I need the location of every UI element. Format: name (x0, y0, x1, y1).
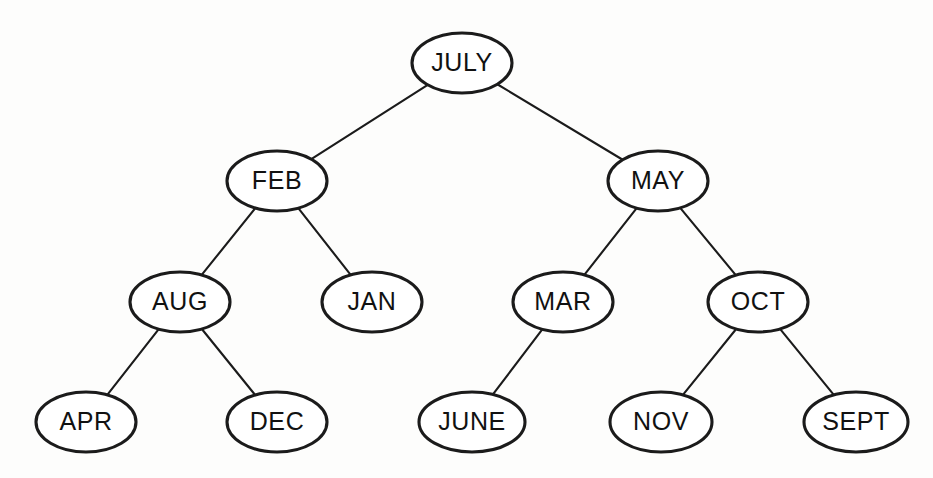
tree-edge-aug-dec (202, 329, 255, 395)
node-label-dec: DEC (250, 407, 305, 435)
tree-edge-oct-nov (683, 329, 736, 395)
node-label-apr: APR (59, 407, 112, 435)
tree-edges-layer (107, 84, 834, 395)
tree-node-apr[interactable]: APR (36, 392, 136, 452)
tree-node-dec[interactable]: DEC (227, 392, 327, 452)
node-label-nov: NOV (633, 407, 689, 435)
node-label-aug: AUG (152, 287, 208, 315)
tree-node-may[interactable]: MAY (608, 151, 708, 211)
tree-node-mar[interactable]: MAR (513, 272, 613, 332)
node-label-feb: FEB (252, 166, 302, 194)
tree-node-oct[interactable]: OCT (708, 272, 808, 332)
tree-diagram-canvas: JULYFEBMAYAUGJANMAROCTAPRDECJUNENOVSEPT (0, 0, 933, 478)
tree-node-nov[interactable]: NOV (610, 392, 712, 452)
tree-edge-may-oct (680, 208, 736, 275)
tree-edge-feb-jan (298, 208, 350, 275)
tree-edge-feb-aug (202, 208, 256, 275)
tree-nodes-layer: JULYFEBMAYAUGJANMAROCTAPRDECJUNENOVSEPT (36, 33, 908, 452)
tree-node-jan[interactable]: JAN (322, 272, 422, 332)
tree-edge-may-mar (584, 208, 636, 275)
tree-edge-oct-sept (780, 329, 834, 395)
node-label-may: MAY (631, 166, 685, 194)
tree-node-june[interactable]: JUNE (419, 392, 525, 452)
node-label-sept: SEPT (822, 407, 890, 435)
tree-node-feb[interactable]: FEB (227, 151, 327, 211)
tree-edge-july-feb (311, 85, 427, 159)
tree-edge-aug-apr (107, 329, 158, 395)
node-label-oct: OCT (731, 287, 786, 315)
tree-node-aug[interactable]: AUG (130, 272, 230, 332)
node-label-july: JULY (431, 48, 493, 76)
node-label-june: JUNE (438, 407, 506, 435)
binary-search-tree-figure: JULYFEBMAYAUGJANMAROCTAPRDECJUNENOVSEPT (0, 0, 933, 478)
tree-node-july[interactable]: JULY (412, 33, 512, 93)
tree-edge-july-may (497, 84, 622, 160)
tree-edge-mar-june (493, 329, 542, 394)
tree-node-sept[interactable]: SEPT (804, 392, 908, 452)
node-label-mar: MAR (534, 287, 591, 315)
node-label-jan: JAN (347, 287, 396, 315)
